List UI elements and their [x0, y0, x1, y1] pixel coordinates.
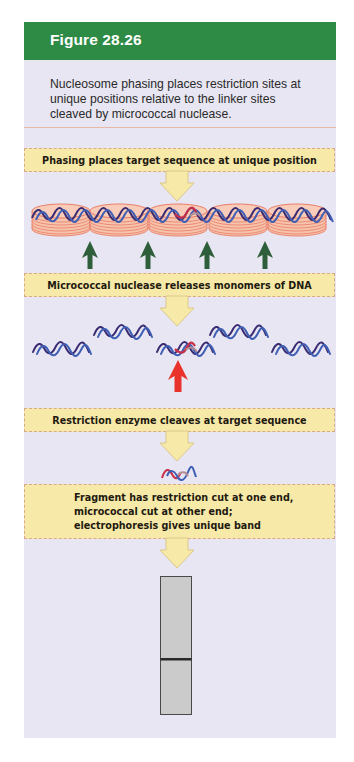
gel-lane: [161, 577, 192, 715]
flow-arrow-1: [160, 171, 194, 201]
cut-arrow-icon: [82, 241, 98, 269]
gel-band: [161, 658, 192, 661]
dna-monomer-target: [157, 342, 215, 356]
diagram-graphics: [0, 0, 354, 762]
cut-arrow-icon: [140, 241, 156, 269]
cut-arrow-icon: [199, 241, 215, 269]
restriction-cut-arrow-icon: [168, 360, 188, 392]
dna-monomer: [210, 325, 268, 339]
flow-arrow-3: [160, 431, 194, 461]
flow-arrow-2: [160, 296, 194, 326]
dna-monomers: [33, 325, 330, 356]
micrococcal-cut-arrows: [82, 241, 273, 269]
dna-monomer: [272, 342, 330, 356]
dna-monomer: [94, 325, 152, 339]
dna-monomer: [33, 342, 91, 356]
flow-arrow-4: [160, 538, 194, 568]
restriction-fragment: [162, 467, 196, 480]
cut-arrow-icon: [257, 241, 273, 269]
